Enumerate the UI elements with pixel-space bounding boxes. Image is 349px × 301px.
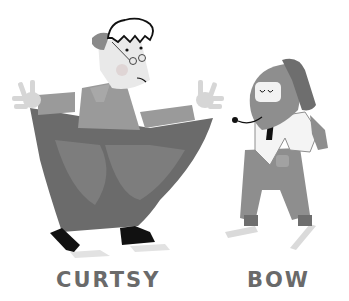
bow-label: BOW [247, 268, 310, 292]
bow-figure [225, 59, 328, 250]
illustration: CURTSY BOW [0, 0, 349, 301]
curtsy-figure [12, 19, 224, 258]
left-hand [12, 80, 41, 109]
curtsy-label: CURTSY [56, 268, 160, 292]
right-hand [196, 80, 224, 109]
illustration-art [0, 0, 349, 301]
